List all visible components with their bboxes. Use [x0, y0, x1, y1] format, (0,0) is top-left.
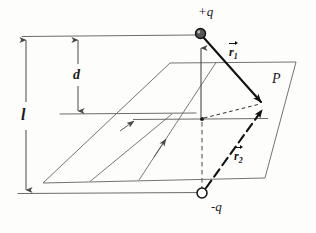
label-negative-charge: -q — [211, 200, 222, 213]
label-dimension-l: l — [21, 107, 25, 123]
plane-parallelogram — [43, 62, 296, 183]
dipole-plane-figure: +q -q P d l r1 r2 — [0, 0, 316, 233]
label-positive-charge: +q — [198, 5, 213, 18]
origin-point — [200, 117, 204, 121]
figure-canvas — [0, 0, 316, 233]
projection-line-origin-to-p — [204, 104, 260, 118]
vector-r2-overbar — [234, 145, 243, 150]
label-vector-r2: r2 — [234, 145, 243, 165]
label-dimension-d: d — [73, 68, 80, 82]
vector-r2-text: r2 — [234, 150, 243, 165]
positive-charge-marker — [196, 29, 206, 39]
label-point-p: P — [272, 72, 281, 86]
vector-r1-text: r1 — [229, 46, 238, 61]
label-vector-r1: r1 — [229, 41, 238, 61]
negative-charge-marker — [197, 188, 207, 198]
positive-charge-highlight — [197, 30, 200, 33]
dimension-reference-lines — [18, 35, 205, 194]
plane-ruling-lines — [90, 63, 216, 182]
vector-r1-overbar — [229, 41, 238, 46]
